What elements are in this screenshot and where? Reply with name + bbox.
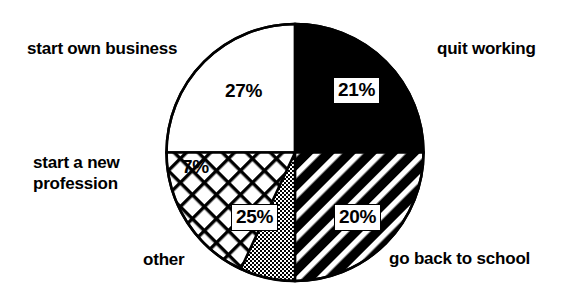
- slice-label-quit-working: quit working: [437, 38, 536, 59]
- slice-label-start-own-business: start own business: [27, 38, 177, 59]
- pie-chart: start own business quit working start a …: [0, 0, 568, 297]
- slice-value-start-own-business: 27%: [223, 79, 264, 103]
- slice-label-go-back-to-school: go back to school: [389, 248, 530, 269]
- slice-label-start-a-new-profession: start a new profession: [33, 152, 120, 194]
- slice-label-other: other: [143, 249, 185, 270]
- slice-value-other: 25%: [231, 204, 278, 231]
- slice-value-go-back-to-school: 20%: [334, 204, 381, 231]
- slice-value-quit-working: 21%: [333, 77, 380, 104]
- slice-value-start-a-new-profession: 7%: [180, 155, 211, 179]
